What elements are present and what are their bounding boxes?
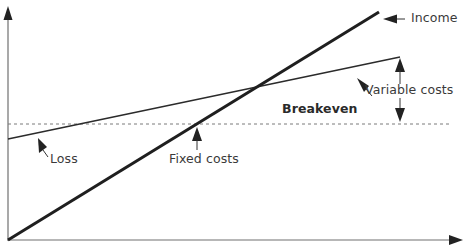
breakeven-label: Breakeven [282,103,358,116]
loss-label: Loss [50,153,78,166]
income-arrow-icon [383,15,405,24]
variable-costs-label: Variable costs [365,84,453,97]
x-axis-arrow-icon [449,235,463,245]
income-line [8,12,379,240]
breakeven-diagram [0,0,465,249]
income-label: Income [411,12,458,25]
fixed-costs-label: Fixed costs [169,153,239,166]
y-axis-arrow-icon [4,6,13,20]
loss-arrow-icon [38,138,48,157]
total-cost-line [8,57,400,139]
x-axis [8,235,463,245]
fixed-costs-arrow-icon [192,127,202,150]
